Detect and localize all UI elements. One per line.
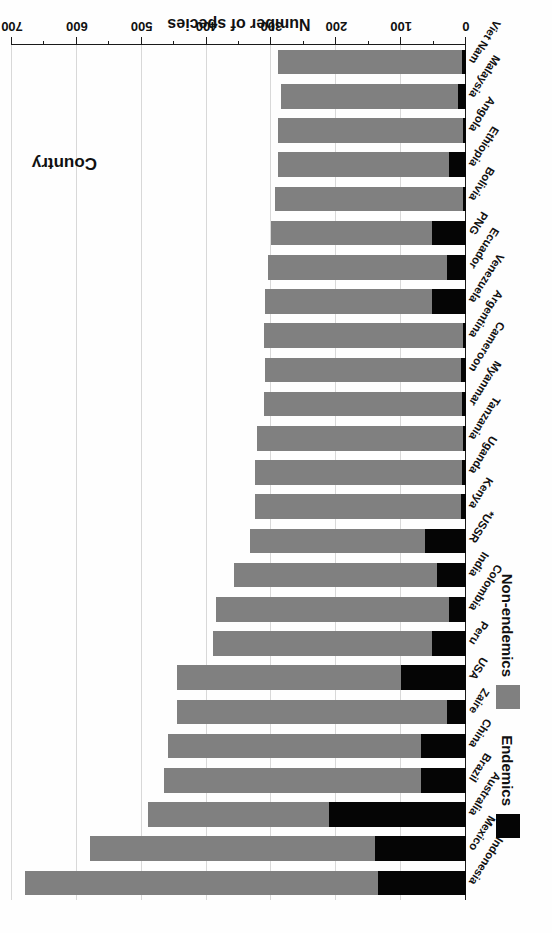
bar-segment-non-endemics [265,289,432,314]
bar-segment-endemics [432,289,466,314]
bar-segment-non-endemics [281,84,458,109]
bar-segment-endemics [462,392,466,417]
legend-swatch-non-endemics [496,685,520,709]
category-label: Kenya [467,475,495,511]
bar-row [177,700,466,725]
bar-row [168,734,466,759]
category-label: *USSR [467,508,496,545]
category-label: Uganda [467,435,500,477]
bar-row [216,597,466,622]
x-tick-major [465,37,466,45]
bar-segment-endemics [461,358,466,383]
bar-segment-non-endemics [177,665,401,690]
bar-segment-non-endemics [264,392,462,417]
bar-row [268,255,466,280]
y-axis-title: Country [32,153,97,173]
bar-segment-endemics [462,460,466,485]
x-tick-minor [108,41,109,45]
bar-segment-non-endemics [255,460,462,485]
bar-row [255,494,466,519]
bar-segment-endemics [447,700,466,725]
category-label: Bolivia [467,165,497,203]
bar-segment-non-endemics [25,871,378,896]
bar-row [90,836,466,861]
bar-segment-non-endemics [250,529,425,554]
x-tick-major [400,37,401,45]
x-tick-major [76,37,77,45]
bar-row [265,358,466,383]
bar-segment-endemics [458,84,466,109]
bar-segment-non-endemics [216,597,449,622]
bar-row [177,665,466,690]
bar-row [281,84,466,109]
x-tick-minor [43,41,44,45]
bar-segment-non-endemics [278,118,463,143]
legend-swatch-endemics [496,814,520,838]
bar-row [264,392,466,417]
bar-segment-endemics [463,118,466,143]
bar-chart-figure: Endemics Non-endemics 010020030040050060… [0,0,552,933]
bar-segment-non-endemics [257,426,463,451]
bar-segment-non-endemics [275,187,463,212]
x-tick-major [270,37,271,45]
x-tick-major [11,37,12,45]
bar-row [250,529,466,554]
bar-segment-non-endemics [168,734,421,759]
bar-segment-endemics [432,631,466,656]
bar-segment-endemics [437,563,466,588]
bar-row [264,323,466,348]
x-tick-major [141,37,142,45]
bar-segment-endemics [447,255,466,280]
bar-row [25,871,466,896]
bar-segment-non-endemics [268,255,446,280]
bar-segment-endemics [432,221,466,246]
bar-row [213,631,466,656]
bar-segment-non-endemics [148,802,328,827]
bar-segment-endemics [463,323,466,348]
bar-row [234,563,466,588]
bar-row [257,426,466,451]
x-tick-minor [303,41,304,45]
plot-area: 0100200300400500600700 IndonesiaMexicoAu… [12,45,466,900]
bar-segment-non-endemics [255,494,461,519]
legend-label-endemics: Endemics [500,735,517,806]
x-tick-minor [433,41,434,45]
gridline [11,45,12,900]
bar-segment-non-endemics [265,358,462,383]
bar-segment-endemics [375,836,466,861]
bar-segment-endemics [401,665,466,690]
bar-segment-non-endemics [234,563,437,588]
bar-segment-non-endemics [278,152,449,177]
bar-segment-endemics [449,597,466,622]
bar-segment-non-endemics [164,768,420,793]
bar-segment-non-endemics [271,221,432,246]
bar-segment-endemics [425,529,466,554]
x-axis-title: Number of species [12,15,466,33]
bar-row [278,50,466,75]
bar-segment-endemics [329,802,466,827]
bar-row [265,289,466,314]
x-tick-major [335,37,336,45]
bar-segment-endemics [449,152,466,177]
x-tick-minor [238,41,239,45]
bar-segment-endemics [462,50,466,75]
bar-segment-endemics [463,187,466,212]
bar-segment-endemics [378,871,466,896]
x-tick-major [206,37,207,45]
bar-segment-endemics [461,494,466,519]
bar-segment-endemics [421,734,466,759]
bar-segment-endemics [421,768,466,793]
gridline [76,45,77,900]
bar-row [164,768,466,793]
legend-label-non-endemics: Non-endemics [500,574,517,677]
bar-row [278,118,466,143]
bar-row [255,460,466,485]
bar-row [275,187,466,212]
bar-row [278,152,466,177]
gridline [141,45,142,900]
bar-segment-non-endemics [213,631,432,656]
bar-segment-endemics [463,426,466,451]
bar-segment-non-endemics [264,323,463,348]
bar-segment-non-endemics [278,50,462,75]
bar-row [271,221,466,246]
